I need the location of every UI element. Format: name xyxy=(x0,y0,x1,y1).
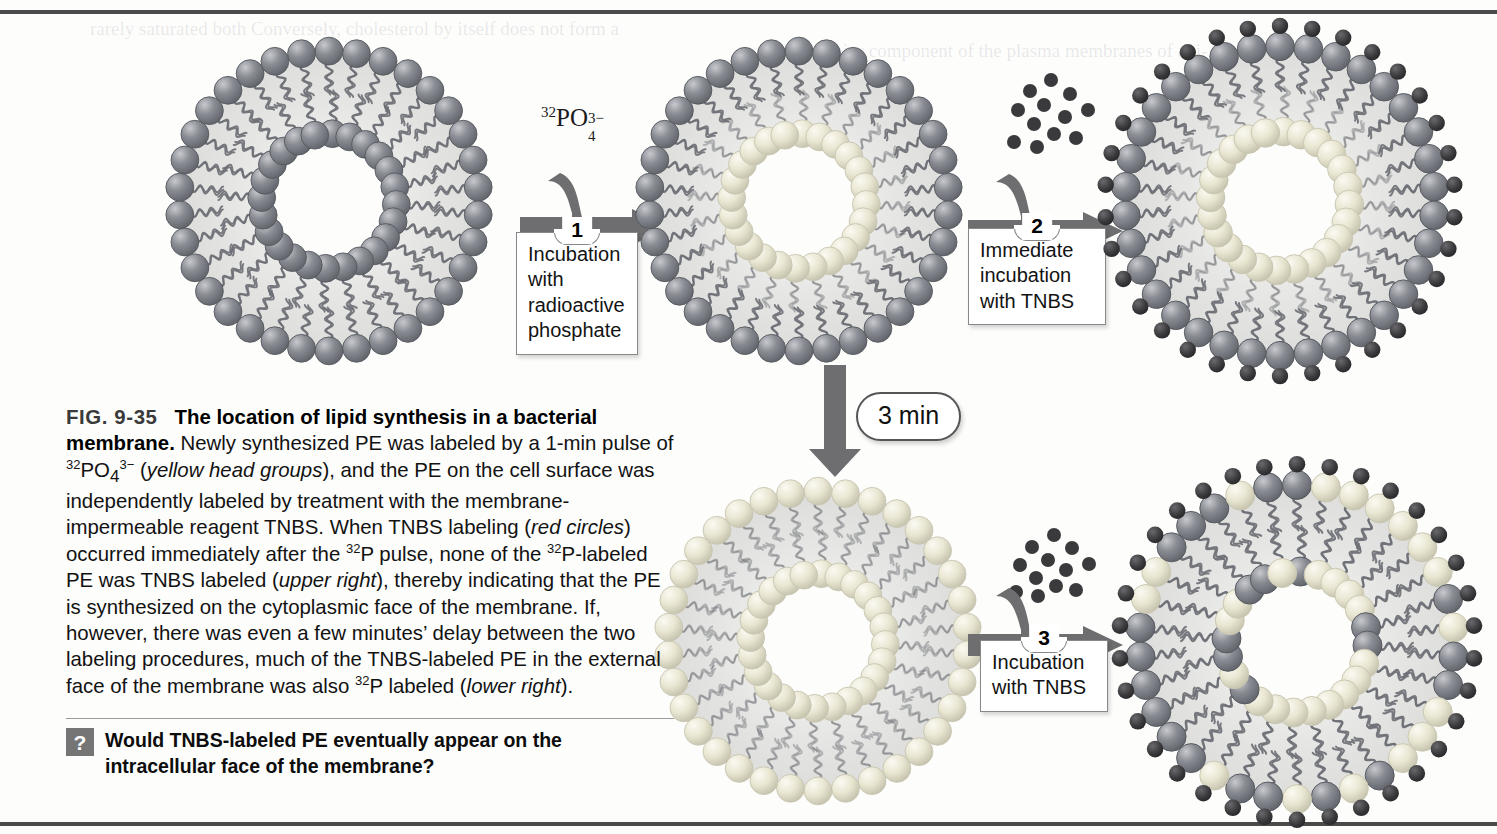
phosphate-reagent-label: 32PO3−4 xyxy=(541,104,603,132)
question-block: ? Would TNBS-labeled PE eventually appea… xyxy=(66,718,674,780)
step-box-3: 3 Incubation with TNBS xyxy=(980,640,1108,712)
delay-pill-3min: 3 min xyxy=(856,392,961,441)
step-number-3: 3 xyxy=(1029,625,1059,652)
step-number-1: 1 xyxy=(562,217,592,244)
vesicle-p32-redistributed xyxy=(633,456,1003,826)
step-box-2: 2 Immediate incubation with TNBS xyxy=(968,228,1106,325)
figure-caption: FIG. 9-35 The location of lipid synthesi… xyxy=(66,404,674,699)
figure-caption-body: Newly synthesized PE was labeled by a 1-… xyxy=(66,432,674,696)
step-text-1: Incubation with radioactive phosphate xyxy=(528,243,625,341)
vesicle-p32-inner-labeled xyxy=(614,16,984,386)
step-text-3: Incubation with TNBS xyxy=(992,651,1086,698)
vesicle-tnbs-outer-labeled xyxy=(1089,10,1471,392)
step-text-2: Immediate incubation with TNBS xyxy=(980,239,1074,312)
question-text: Would TNBS-labeled PE eventually appear … xyxy=(105,728,674,780)
step-number-2: 2 xyxy=(1022,213,1052,240)
question-mark-icon: ? xyxy=(66,728,94,756)
delay-label: 3 min xyxy=(878,401,939,429)
figure-number: FIG. 9-35 xyxy=(66,406,158,428)
vesicle-double-labeled xyxy=(1103,448,1491,834)
vesicle-unlabeled xyxy=(144,16,514,386)
